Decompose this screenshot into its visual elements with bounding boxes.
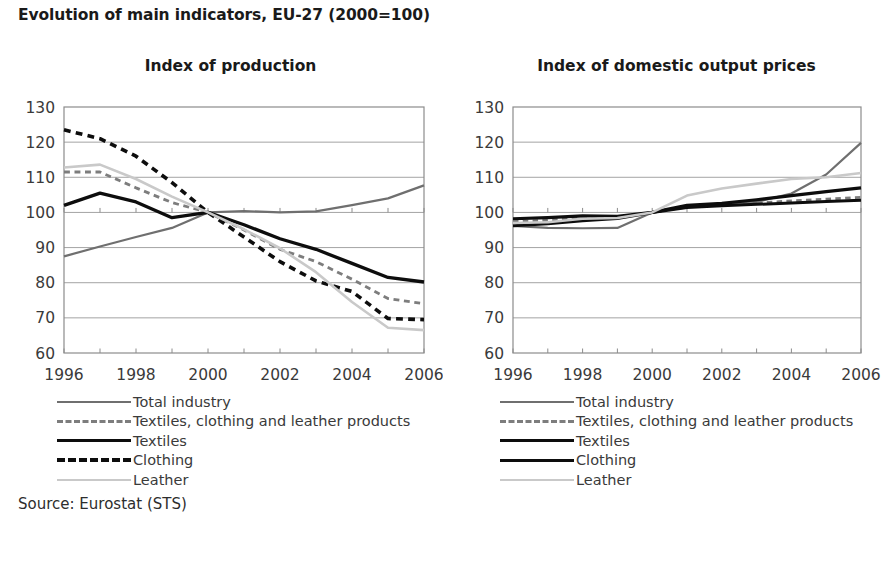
figure-root: Evolution of main indicators, EU-27 (200… bbox=[0, 0, 886, 562]
svg-text:2004: 2004 bbox=[772, 366, 811, 384]
legend-label: Textiles bbox=[576, 434, 630, 449]
legend-item-total-industry: Total industry bbox=[443, 392, 886, 412]
legend-item-leather: Leather bbox=[0, 470, 443, 490]
svg-text:1998: 1998 bbox=[563, 366, 602, 384]
svg-text:130: 130 bbox=[474, 99, 504, 117]
legend-label: Total industry bbox=[576, 395, 674, 410]
panel-index-of-production: Index of production 60708090100110120130… bbox=[0, 0, 443, 540]
legend-left: Total industryTextiles, clothing and lea… bbox=[0, 392, 443, 490]
svg-text:120: 120 bbox=[474, 134, 504, 152]
legend-item-textiles: Textiles bbox=[443, 431, 886, 451]
svg-text:80: 80 bbox=[484, 274, 504, 292]
svg-text:1998: 1998 bbox=[116, 366, 155, 384]
svg-text:100: 100 bbox=[474, 204, 504, 222]
svg-text:70: 70 bbox=[35, 309, 55, 327]
legend-swatch-solid-light-icon bbox=[55, 473, 133, 487]
svg-text:120: 120 bbox=[25, 134, 55, 152]
legend-swatch-solid-light-icon bbox=[498, 473, 576, 487]
svg-text:80: 80 bbox=[35, 274, 55, 292]
legend-label: Textiles, clothing and leather products bbox=[133, 414, 410, 429]
plot-frame bbox=[513, 107, 861, 353]
svg-text:2002: 2002 bbox=[260, 366, 299, 384]
legend-item-total-industry: Total industry bbox=[0, 392, 443, 412]
svg-text:90: 90 bbox=[35, 239, 55, 257]
svg-text:70: 70 bbox=[484, 309, 504, 327]
chart-title-left: Index of production bbox=[0, 57, 443, 75]
legend-item-textiles: Textiles bbox=[0, 431, 443, 451]
y-axis-labels: 60708090100110120130 bbox=[25, 99, 55, 363]
svg-text:2000: 2000 bbox=[632, 366, 671, 384]
legend-item-leather: Leather bbox=[443, 470, 886, 490]
legend-swatch-dash-gray-icon bbox=[55, 414, 133, 428]
x-axis-labels: 199619982000200220042006 bbox=[44, 366, 443, 384]
plot-area-right: 6070809010011012013019961998200020022004… bbox=[443, 96, 886, 396]
legend-label: Textiles, clothing and leather products bbox=[576, 414, 853, 429]
legend-swatch-dash-gray-icon bbox=[498, 414, 576, 428]
legend-label: Clothing bbox=[133, 453, 193, 468]
data-series-group bbox=[513, 143, 861, 228]
svg-text:110: 110 bbox=[25, 169, 55, 187]
svg-text:2006: 2006 bbox=[841, 366, 880, 384]
svg-text:130: 130 bbox=[25, 99, 55, 117]
svg-text:1996: 1996 bbox=[44, 366, 83, 384]
chart-svg-left: 6070809010011012013019961998200020022004… bbox=[0, 96, 443, 396]
legend-label: Clothing bbox=[576, 453, 636, 468]
plot-area-left: 6070809010011012013019961998200020022004… bbox=[0, 96, 443, 396]
x-axis-ticks bbox=[513, 208, 861, 353]
legend-item-textiles-clothing-and-leather-products: Textiles, clothing and leather products bbox=[443, 412, 886, 432]
legend-swatch-solid-black-icon bbox=[498, 453, 576, 467]
svg-text:2002: 2002 bbox=[702, 366, 741, 384]
data-series-group bbox=[64, 130, 424, 330]
legend-label: Textiles bbox=[133, 434, 187, 449]
svg-text:60: 60 bbox=[484, 345, 504, 363]
svg-text:2004: 2004 bbox=[332, 366, 371, 384]
chart-title-right: Index of domestic output prices bbox=[443, 57, 886, 75]
gridlines bbox=[513, 142, 861, 318]
legend-swatch-solid-gray-icon bbox=[55, 395, 133, 409]
legend-swatch-dash-black-icon bbox=[55, 453, 133, 467]
chart-svg-right: 6070809010011012013019961998200020022004… bbox=[443, 96, 886, 396]
legend-item-textiles-clothing-and-leather-products: Textiles, clothing and leather products bbox=[0, 412, 443, 432]
legend-swatch-solid-gray-icon bbox=[498, 395, 576, 409]
legend-swatch-solid-black-icon bbox=[55, 434, 133, 448]
source-note: Source: Eurostat (STS) bbox=[18, 495, 187, 513]
svg-text:2006: 2006 bbox=[404, 366, 443, 384]
legend-swatch-solid-black-icon bbox=[498, 434, 576, 448]
x-axis-labels: 199619982000200220042006 bbox=[493, 366, 880, 384]
legend-right: Total industryTextiles, clothing and lea… bbox=[443, 392, 886, 490]
svg-text:90: 90 bbox=[484, 239, 504, 257]
y-axis-labels: 60708090100110120130 bbox=[474, 99, 504, 363]
legend-label: Leather bbox=[576, 473, 631, 488]
svg-text:110: 110 bbox=[474, 169, 504, 187]
series-line-textiles-clothing-and-leather-products bbox=[64, 172, 424, 304]
legend-label: Total industry bbox=[133, 395, 231, 410]
legend-item-clothing: Clothing bbox=[0, 451, 443, 471]
legend-item-clothing: Clothing bbox=[443, 451, 886, 471]
legend-label: Leather bbox=[133, 473, 188, 488]
panel-index-of-domestic-output-prices: Index of domestic output prices 60708090… bbox=[443, 0, 886, 540]
svg-text:1996: 1996 bbox=[493, 366, 532, 384]
svg-text:60: 60 bbox=[35, 345, 55, 363]
svg-text:2000: 2000 bbox=[188, 366, 227, 384]
svg-text:100: 100 bbox=[25, 204, 55, 222]
